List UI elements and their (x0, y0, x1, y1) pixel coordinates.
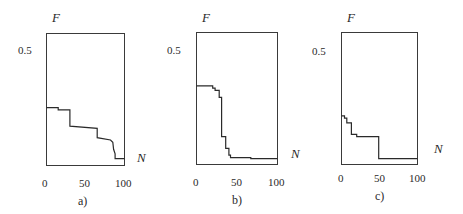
x-tick-label: 0 (338, 172, 344, 184)
x-tick-label: 100 (115, 177, 132, 189)
figure: F 0.5 N 0 50 100 a) F 0.5 N 0 50 100 b) … (0, 0, 463, 214)
x-tick-label: 0 (42, 177, 48, 189)
x-axis-label: N (290, 146, 301, 161)
x-tick-label: 50 (374, 172, 386, 184)
data-line (342, 116, 418, 159)
x-axis-label: N (136, 150, 147, 165)
y-tick-label: 0.5 (312, 45, 326, 57)
subplot-label: a) (78, 194, 87, 208)
data-line (47, 108, 125, 159)
plot-frame (342, 33, 418, 165)
subplot-label: c) (375, 189, 384, 203)
x-tick-label: 50 (79, 177, 91, 189)
y-tick-label: 0.5 (167, 44, 181, 56)
x-tick-label: 100 (268, 176, 285, 188)
y-axis-label: F (51, 10, 61, 25)
y-tick-label: 0.5 (18, 44, 32, 56)
x-axis-label: N (433, 141, 444, 156)
subplot-label: b) (232, 193, 242, 207)
panel-c: F 0.5 N 0 50 100 c) (312, 10, 444, 203)
x-tick-label: 0 (193, 176, 199, 188)
x-tick-label: 50 (231, 176, 243, 188)
panel-a: F 0.5 N 0 50 100 a) (18, 10, 147, 208)
plot-frame (197, 33, 278, 165)
y-axis-label: F (346, 10, 356, 25)
panel-b: F 0.5 N 0 50 100 b) (167, 10, 301, 207)
x-tick-label: 100 (409, 172, 426, 184)
data-line (197, 86, 278, 159)
y-axis-label: F (201, 10, 211, 25)
